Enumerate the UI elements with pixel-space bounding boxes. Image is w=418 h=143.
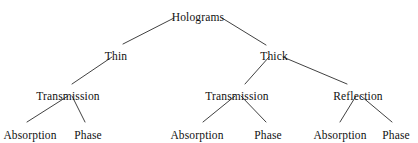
tree-node-thin: Thin xyxy=(105,50,127,63)
tree-node-thick-refl: Reflection xyxy=(333,90,382,103)
tree-node-thick: Thick xyxy=(260,50,288,63)
tree-node-thick-trans: Transmission xyxy=(205,90,268,103)
tree-node-thick-trans-pha: Phase xyxy=(254,129,282,142)
tree-node-thick-trans-abs: Absorption xyxy=(170,129,223,142)
tree-node-thin-trans: Transmission xyxy=(36,90,99,103)
tree-node-thin-trans-pha: Phase xyxy=(74,129,102,142)
hologram-classification-diagram: HologramsThinThickTransmissionTransmissi… xyxy=(0,0,418,143)
tree-edge-holograms-to-thin xyxy=(123,18,174,44)
tree-edge-holograms-to-thick xyxy=(222,18,266,45)
tree-node-thick-refl-abs: Absorption xyxy=(313,129,366,142)
tree-edge-thick-to-thick-refl xyxy=(283,57,347,84)
tree-node-thick-refl-pha: Phase xyxy=(382,129,410,142)
tree-node-thin-trans-abs: Absorption xyxy=(3,129,56,142)
tree-node-holograms: Holograms xyxy=(172,11,224,24)
